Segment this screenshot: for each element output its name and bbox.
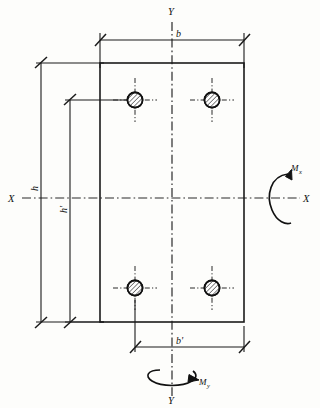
diagram-canvas: b b' h h' xyxy=(0,0,320,408)
dimension-b-prime xyxy=(130,300,250,353)
moment-my-symbol xyxy=(148,370,199,386)
rebar-top-right xyxy=(190,78,234,122)
dimension-b-label: b xyxy=(176,28,181,39)
axis-label-x-right: X xyxy=(302,193,310,204)
moment-my-label: M xyxy=(198,377,207,387)
axis-label-y-bottom: Y xyxy=(168,395,175,406)
dimension-h-prime xyxy=(64,94,128,328)
moment-mx-label: M xyxy=(290,163,299,173)
dimension-h-label: h xyxy=(29,186,40,191)
dimension-b-prime-label: b' xyxy=(176,335,184,346)
dimension-h-prime-label: h' xyxy=(58,205,69,213)
moment-mx-symbol xyxy=(269,170,292,224)
rebar-bottom-right xyxy=(190,266,234,310)
axis-label-x-left: X xyxy=(7,193,15,204)
moment-my-subscript: y xyxy=(206,382,210,389)
moment-mx-subscript: x xyxy=(298,168,302,175)
axis-label-y-top: Y xyxy=(168,6,175,17)
